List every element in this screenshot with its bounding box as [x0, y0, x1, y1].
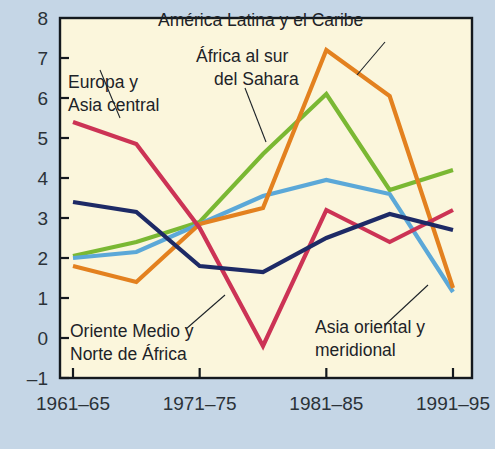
y-tick-label: 2 [37, 248, 48, 269]
annotation-line: Europa y [68, 72, 138, 92]
annotation-line: América Latina y el Caribe [158, 10, 363, 30]
annotation-line: del Sahara [214, 69, 299, 89]
y-axis-tick-labels: 876543210–1 [27, 8, 49, 389]
annotation-line: Asia central [68, 95, 159, 115]
x-tick-label: 1991–95 [416, 393, 490, 414]
y-tick-label: 4 [37, 168, 48, 189]
x-tick-label: 1981–85 [289, 393, 363, 414]
y-tick-label: –1 [27, 368, 48, 389]
x-axis-tick-labels: 1961–651971–751981–851991–95 [36, 393, 490, 414]
annotation-line: meridional [315, 340, 396, 360]
y-tick-label: 5 [37, 128, 48, 149]
y-tick-label: 8 [37, 8, 48, 29]
annotation-line: Asia oriental y [315, 317, 425, 337]
annotation-line: África al sur [196, 46, 289, 66]
annotation-line: Norte de África [70, 344, 187, 364]
y-tick-label: 1 [37, 288, 48, 309]
annotation-line: Oriente Medio y [70, 321, 194, 341]
x-tick-label: 1971–75 [163, 393, 237, 414]
y-tick-label: 6 [37, 88, 48, 109]
y-tick-label: 3 [37, 208, 48, 229]
chart-figure: 876543210–1 1961–651971–751981–851991–95… [0, 0, 495, 449]
x-tick-label: 1961–65 [36, 393, 110, 414]
y-tick-label: 7 [37, 48, 48, 69]
line-chart: 876543210–1 1961–651971–751981–851991–95… [0, 0, 495, 449]
annotation-america-latina-caribe: América Latina y el Caribe [158, 10, 363, 30]
y-tick-label: 0 [37, 328, 48, 349]
